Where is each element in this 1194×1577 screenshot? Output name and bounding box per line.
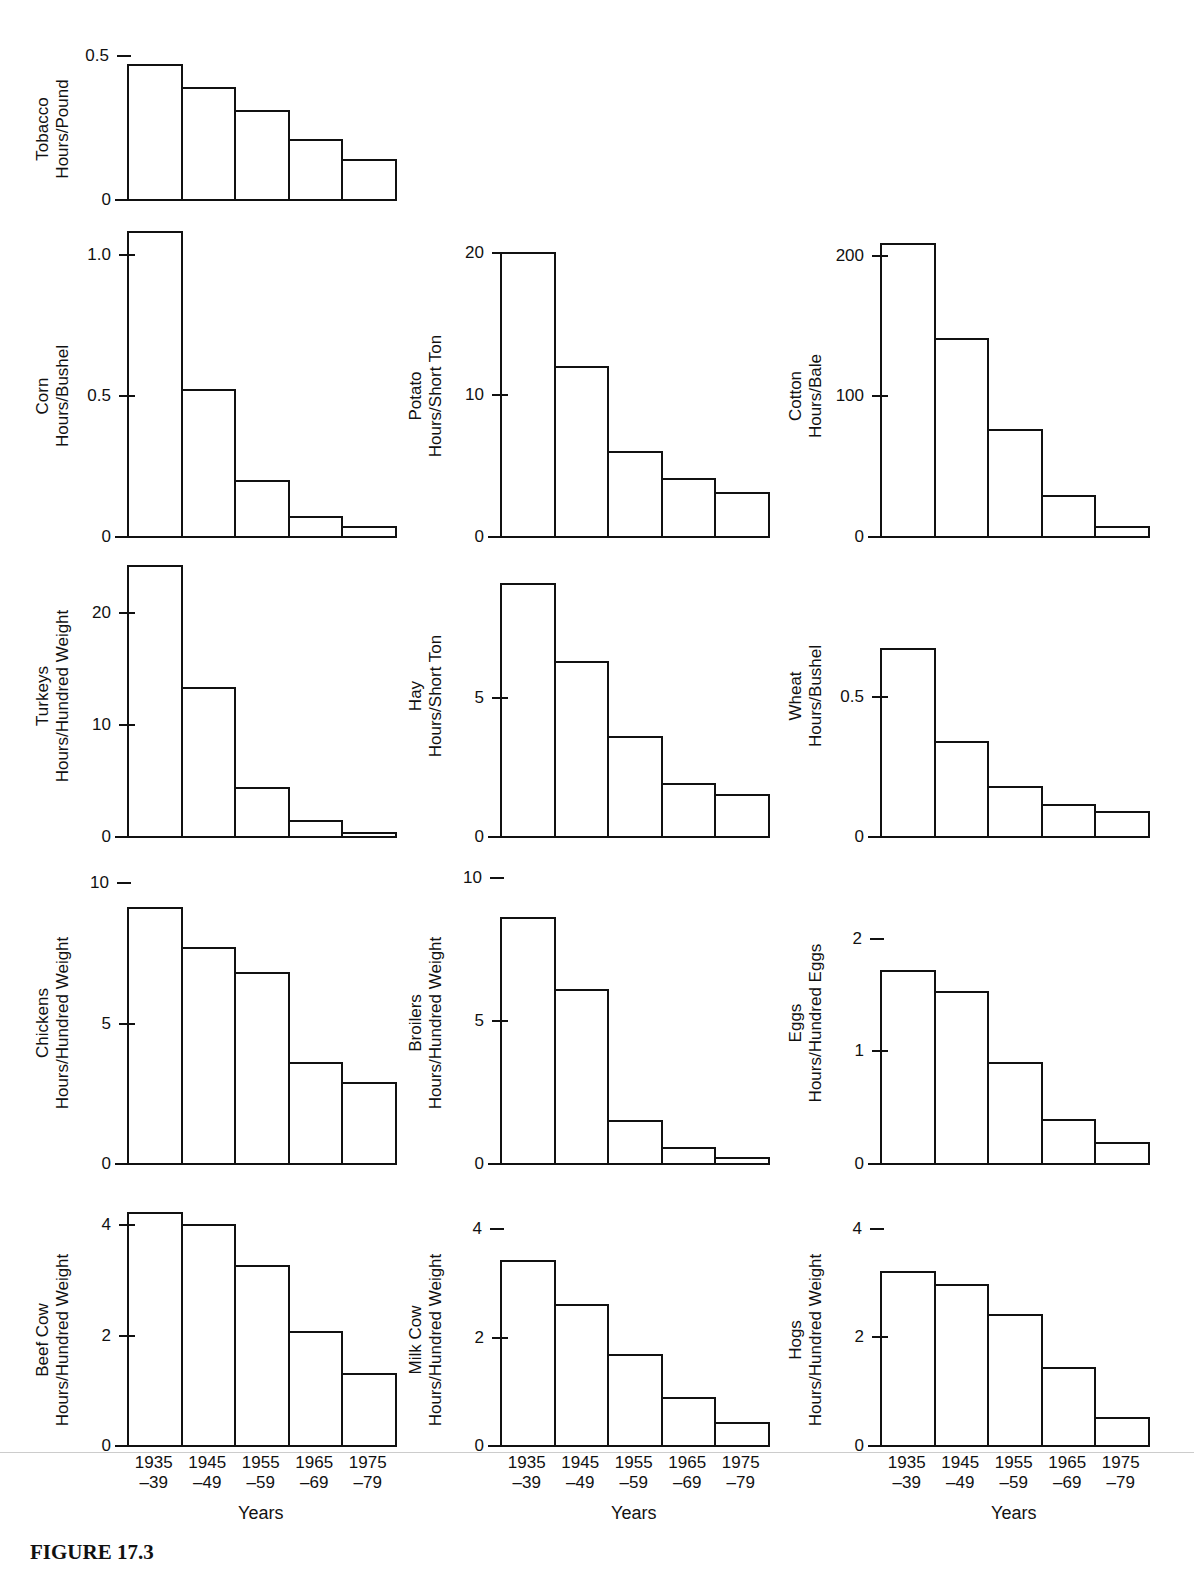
y-axis-label-wheat: WheatHours/Bushel [786, 576, 830, 816]
x-tick-label-line: –69 [286, 1473, 342, 1493]
bar-milk-cow-0 [500, 1260, 556, 1447]
y-axis-label-tobacco: TobaccoHours/Pound [33, 9, 77, 249]
bar-eggs-2 [987, 1062, 1043, 1165]
y-tick-label-chickens: 0 [61, 1155, 111, 1173]
x-tick-label-line: 1945 [932, 1453, 988, 1473]
bar-broilers-0 [500, 917, 556, 1165]
bar-chickens-4 [341, 1082, 397, 1165]
y-axis-label-turkeys: TurkeysHours/Hundred Weight [33, 576, 77, 816]
bar-potato-0 [500, 252, 556, 538]
bar-wheat-2 [987, 786, 1043, 838]
x-tick-label-line: –49 [552, 1473, 608, 1493]
y-tick-tobacco [117, 55, 131, 57]
x-tick-label-line: –59 [233, 1473, 289, 1493]
y-axis-label-line: Hours/Hundred Eggs [806, 903, 826, 1143]
bar-turkeys-1 [181, 687, 237, 838]
y-tick-potato [492, 252, 508, 254]
y-tick-label-corn: 0 [61, 528, 111, 546]
y-tick-beef-cow [119, 1335, 135, 1337]
bar-eggs-4 [1094, 1142, 1150, 1165]
y-axis-label-line: Hours/Hundred Weight [426, 1220, 446, 1460]
y-axis-label-line: Hogs [786, 1220, 806, 1460]
y-axis-label-hogs: HogsHours/Hundred Weight [786, 1220, 830, 1460]
bar-potato-4 [714, 492, 770, 538]
y-tick-label-wheat: 0 [814, 828, 864, 846]
x-tick-label-line: –49 [179, 1473, 235, 1493]
y-tick-broilers [492, 1020, 508, 1022]
bar-wheat-0 [880, 648, 936, 838]
y-tick-corn [119, 395, 135, 397]
y-axis-label-line: Eggs [786, 903, 806, 1143]
y-tick-cotton [872, 255, 888, 257]
bar-corn-2 [234, 480, 290, 538]
baseline-broilers [488, 1163, 770, 1165]
y-axis-label-line: Broilers [406, 903, 426, 1143]
x-tick-label: 1975–79 [340, 1453, 396, 1493]
y-tick-beef-cow [119, 1224, 135, 1226]
y-tick-label-cotton: 0 [814, 528, 864, 546]
bar-turkeys-2 [234, 787, 290, 838]
x-tick-label-line: 1965 [659, 1453, 715, 1473]
x-tick-label: 1955–59 [986, 1453, 1042, 1493]
y-tick-potato [492, 394, 508, 396]
x-tick-label: 1965–69 [659, 1453, 715, 1493]
y-axis-label-line: Hours/Short Ton [426, 276, 446, 516]
y-axis-label-line: Hours/Short Ton [426, 576, 446, 816]
baseline-corn [115, 536, 397, 538]
bar-hay-2 [607, 736, 663, 838]
figure-caption: FIGURE 17.3 [30, 1540, 154, 1565]
baseline-hogs [868, 1445, 1150, 1447]
y-axis-label-line: Tobacco [33, 9, 53, 249]
bar-broilers-1 [554, 989, 610, 1165]
y-axis-label-line: Wheat [786, 576, 806, 816]
y-tick-hay [492, 697, 508, 699]
bar-chickens-2 [234, 972, 290, 1165]
bar-beef-cow-2 [234, 1265, 290, 1447]
bar-cotton-0 [880, 243, 936, 538]
bar-eggs-3 [1041, 1119, 1097, 1165]
bar-tobacco-3 [288, 139, 344, 201]
y-axis-label-line: Cotton [786, 276, 806, 516]
bar-broilers-2 [607, 1120, 663, 1165]
x-tick-label-line: –69 [659, 1473, 715, 1493]
baseline-cotton [868, 536, 1150, 538]
bar-wheat-1 [934, 741, 990, 838]
x-tick-label: 1955–59 [233, 1453, 289, 1493]
x-tick-label-line: –49 [932, 1473, 988, 1493]
bar-corn-0 [127, 231, 183, 538]
bar-hay-1 [554, 661, 610, 838]
y-tick-label-chickens: 10 [59, 874, 109, 892]
page-edge-line [0, 1452, 1194, 1453]
bar-wheat-4 [1094, 811, 1150, 838]
y-tick-wheat [872, 696, 888, 698]
y-axis-label-line: Hours/Hundred Weight [806, 1220, 826, 1460]
bar-hogs-3 [1041, 1367, 1097, 1447]
y-axis-label-chickens: ChickensHours/Hundred Weight [33, 903, 77, 1143]
y-axis-label-line: Hours/Pound [53, 9, 73, 249]
y-axis-label-beef-cow: Beef CowHours/Hundred Weight [33, 1220, 77, 1460]
y-axis-label-corn: CornHours/Bushel [33, 276, 77, 516]
y-tick-turkeys [119, 612, 135, 614]
bar-chickens-1 [181, 947, 237, 1165]
y-axis-label-line: Hours/Hundred Weight [53, 576, 73, 816]
y-tick-eggs [870, 938, 884, 940]
bar-potato-2 [607, 451, 663, 538]
bar-chickens-3 [288, 1062, 344, 1165]
y-axis-label-line: Hours/Bale [806, 276, 826, 516]
bar-milk-cow-1 [554, 1304, 610, 1447]
bar-milk-cow-3 [661, 1397, 717, 1447]
y-axis-label-broilers: BroilersHours/Hundred Weight [406, 903, 450, 1143]
baseline-wheat [868, 836, 1150, 838]
x-tick-label-line: –39 [879, 1473, 935, 1493]
y-tick-label-turkeys: 0 [61, 828, 111, 846]
y-axis-label-potato: PotatoHours/Short Ton [406, 276, 450, 516]
y-tick-label-cotton: 200 [814, 247, 864, 265]
baseline-milk-cow [488, 1445, 770, 1447]
bar-wheat-3 [1041, 804, 1097, 838]
y-axis-label-line: Potato [406, 276, 426, 516]
y-axis-label-line: Chickens [33, 903, 53, 1143]
y-axis-label-line: Hay [406, 576, 426, 816]
x-tick-label-line: 1935 [879, 1453, 935, 1473]
y-axis-label-eggs: EggsHours/Hundred Eggs [786, 903, 830, 1143]
x-tick-label-line: 1975 [1093, 1453, 1149, 1473]
